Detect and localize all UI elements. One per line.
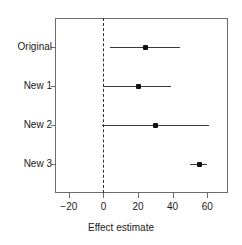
y-axis-label-new-2: New 2 bbox=[0, 120, 52, 130]
x-axis-title: Effect estimate bbox=[0, 222, 242, 234]
x-axis-tick bbox=[207, 193, 208, 198]
estimate-point bbox=[197, 162, 202, 167]
x-axis-tick bbox=[138, 193, 139, 198]
x-axis-tick bbox=[173, 193, 174, 198]
forest-plot-chart: Original New 1 New 2 New 3 −20 0 20 40 6… bbox=[0, 0, 242, 245]
x-axis-tick bbox=[69, 193, 70, 198]
y-axis-label-new-3: New 3 bbox=[0, 159, 52, 169]
x-axis-tick bbox=[103, 193, 104, 198]
zero-reference-line bbox=[103, 18, 104, 193]
plot-area bbox=[55, 18, 228, 193]
estimate-point bbox=[143, 45, 148, 50]
estimate-point bbox=[153, 123, 158, 128]
estimate-point bbox=[136, 84, 141, 89]
y-axis-label-original: Original bbox=[0, 42, 52, 52]
x-axis-ticklabel: 60 bbox=[187, 201, 227, 212]
y-axis-label-new-1: New 1 bbox=[0, 81, 52, 91]
